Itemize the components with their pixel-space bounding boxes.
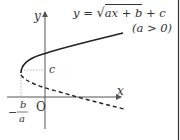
fraction-denominator: a bbox=[19, 114, 25, 124]
curve-solid bbox=[21, 33, 123, 73]
equation-label: y = √ax + b + c bbox=[73, 6, 166, 20]
minus-sign: − bbox=[8, 107, 17, 118]
y-axis-label: y bbox=[34, 10, 41, 22]
x-axis-label: x bbox=[117, 85, 124, 97]
condition-label: (a > 0) bbox=[132, 23, 172, 35]
c-label: c bbox=[49, 64, 55, 75]
origin-label: O bbox=[36, 101, 46, 113]
graph-figure: y = √ax + b + c (a > 0) y x O c − b a bbox=[0, 0, 180, 140]
fraction-numerator: b bbox=[20, 100, 26, 110]
